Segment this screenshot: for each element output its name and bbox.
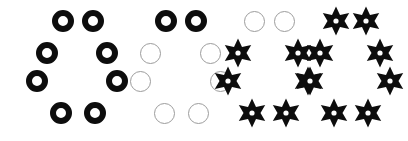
group-4-bottom-left [319, 98, 349, 128]
black-ring-shape [96, 42, 118, 64]
group-3-bottom-right [271, 98, 301, 128]
black-star-shape [305, 38, 335, 68]
outline-circle-shape [274, 11, 295, 32]
group-2-upper-right [195, 38, 225, 68]
black-ring-shape [155, 10, 177, 32]
group-1-bottom-left [46, 98, 76, 128]
group-4-upper-left [305, 38, 335, 68]
black-star-shape [271, 98, 301, 128]
outline-circle-shape [200, 43, 221, 64]
group-3-top-left [239, 6, 269, 36]
group-2-upper-left [135, 38, 165, 68]
outline-circle-shape [140, 43, 161, 64]
group-2-top-right [181, 6, 211, 36]
group-2-bottom-right [183, 98, 213, 128]
outline-circle-shape [188, 103, 209, 124]
group-2-bottom-left [149, 98, 179, 128]
black-ring-shape [52, 10, 74, 32]
group-3-top-right [269, 6, 299, 36]
group-3-upper-left [223, 38, 253, 68]
group-3-lower-left [213, 66, 243, 96]
group-4-lower-right [375, 66, 405, 96]
black-star-shape [321, 6, 351, 36]
black-ring-shape [26, 70, 48, 92]
group-1-upper-right [92, 38, 122, 68]
black-star-shape [223, 38, 253, 68]
group-3-bottom-left [237, 98, 267, 128]
pattern-canvas [0, 0, 408, 141]
black-star-shape [213, 66, 243, 96]
black-star-shape [237, 98, 267, 128]
outline-circle-shape [154, 103, 175, 124]
group-4-top-left [321, 6, 351, 36]
outline-circle-shape [244, 11, 265, 32]
group-4-lower-left [295, 66, 325, 96]
black-ring-shape [185, 10, 207, 32]
group-1-bottom-right [80, 98, 110, 128]
group-1-upper-left [32, 38, 62, 68]
black-ring-shape [36, 42, 58, 64]
group-4-upper-right [365, 38, 395, 68]
black-ring-shape [84, 102, 106, 124]
black-star-shape [351, 6, 381, 36]
black-star-shape [365, 38, 395, 68]
group-2-lower-left [125, 66, 155, 96]
black-ring-shape [82, 10, 104, 32]
black-ring-shape [50, 102, 72, 124]
outline-circle-shape [130, 71, 151, 92]
group-1-top-left [48, 6, 78, 36]
group-2-top-left [151, 6, 181, 36]
group-4-top-right [351, 6, 381, 36]
black-star-shape [353, 98, 383, 128]
black-star-shape [319, 98, 349, 128]
group-4-bottom-right [353, 98, 383, 128]
black-star-shape [375, 66, 405, 96]
group-1-lower-left [22, 66, 52, 96]
group-1-top-right [78, 6, 108, 36]
black-star-shape [295, 66, 325, 96]
